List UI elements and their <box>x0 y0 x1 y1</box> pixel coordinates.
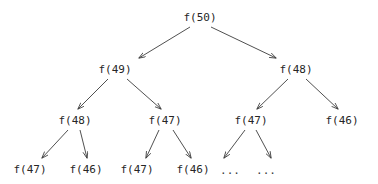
recursion-tree-diagram: f(50)f(49)f(48)f(48)f(47)f(47)f(46)f(47)… <box>0 0 378 184</box>
tree-edge-n2-to-n5 <box>257 79 288 109</box>
tree-node-n7: f(47) <box>13 164 46 176</box>
tree-node-ellipsis: ... <box>220 165 240 177</box>
tree-node-n4: f(47) <box>148 115 181 127</box>
tree-node-n0: f(50) <box>183 12 216 24</box>
tree-node-n8: f(46) <box>69 164 102 176</box>
tree-edge-n0-to-n1 <box>139 27 190 58</box>
tree-node-n3: f(48) <box>58 115 91 127</box>
tree-edge-n1-to-n3 <box>78 79 108 109</box>
tree-edge-n3-to-n7 <box>42 130 68 158</box>
tree-node-n1: f(49) <box>98 64 131 76</box>
tree-edges <box>42 27 338 158</box>
tree-edge-n2-to-n6 <box>306 79 338 109</box>
tree-edge-n3-to-n8 <box>80 130 87 158</box>
tree-node-n2: f(48) <box>279 64 312 76</box>
tree-edge-n1-to-n4 <box>127 79 161 109</box>
tree-node-n5: f(47) <box>234 115 267 127</box>
tree-edge-n5-to-n12 <box>256 130 271 158</box>
tree-edge-n0-to-n2 <box>211 27 276 58</box>
tree-node-n10: f(46) <box>176 164 209 176</box>
tree-edge-n4-to-n9 <box>146 130 159 158</box>
tree-edge-n5-to-n11 <box>224 130 245 158</box>
tree-node-n9: f(47) <box>120 164 153 176</box>
tree-node-ellipsis: ... <box>256 165 276 177</box>
edge-layer <box>0 0 378 184</box>
tree-edge-n4-to-n10 <box>173 130 191 158</box>
tree-node-n6: f(46) <box>325 115 358 127</box>
